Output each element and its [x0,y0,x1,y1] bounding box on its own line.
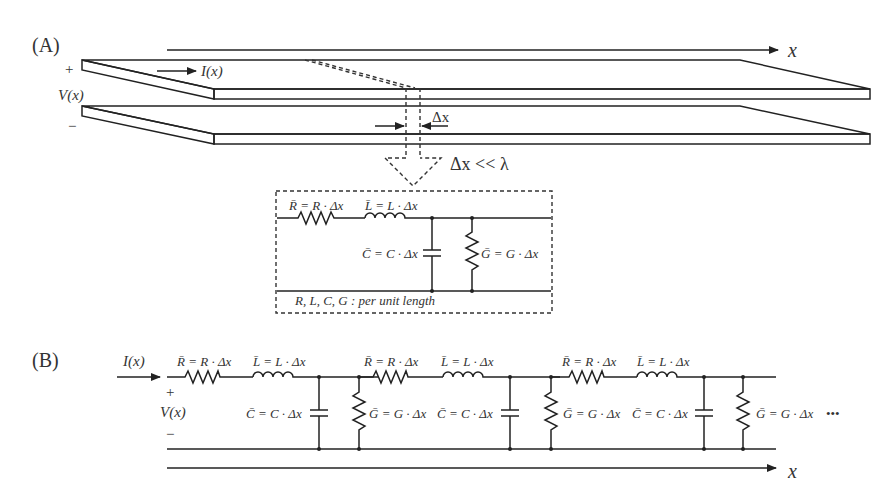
inset-circuit: R̄ = R · Δx L̄ = L · Δx C̄ = C · Δx Ḡ = … [276,191,552,313]
section-1-c-label: C̄ = C · Δx [246,406,302,421]
inset-r-label: R̄ = R · Δx [288,198,344,213]
panel-b-label: (B) [32,349,59,372]
panel-a: (A) x I(x) + V(x) − [32,34,870,313]
inset-g-label: Ḡ = G · Δx [481,246,538,261]
transmission-line-diagram: (A) x I(x) + V(x) − [0,0,896,504]
section-3-g-label: Ḡ = G · Δx [756,406,813,421]
section-1-r-label: R̄ = R · Δx [176,354,232,369]
current-label: I(x) [200,63,223,80]
x-axis-label: x [787,39,797,61]
section-1-l-label: L̄ = L · Δx [252,354,306,369]
section-1-g-label: Ḡ = G · Δx [369,406,426,421]
section-2-g-label: Ḡ = G · Δx [563,406,620,421]
x-axis-label-b: x [787,460,797,482]
continuation-ellipsis: ••• [826,406,840,421]
section-2-r-label: R̄ = R · Δx [363,354,419,369]
section-3-l-label: L̄ = L · Δx [636,354,690,369]
section-2-l-label: L̄ = L · Δx [440,354,494,369]
approx-condition: Δx << λ [450,154,509,174]
minus-sign-b: − [166,426,174,442]
delta-x-slice [305,60,441,186]
plus-sign-b: + [166,384,174,400]
bottom-conductor-plate [82,106,870,144]
dx-label: Δx [432,109,450,125]
section-2-c-label: C̄ = C · Δx [437,406,493,421]
panel-a-label: (A) [32,34,60,57]
minus-sign: − [68,118,76,134]
voltage-label-b: V(x) [160,404,186,421]
inset-l-label: L̄ = L · Δx [364,198,418,213]
voltage-label: V(x) [58,87,84,104]
section-3-r-label: R̄ = R · Δx [561,354,617,369]
panel-b: (B) I(x) + V(x) − [32,349,840,482]
inset-note: R, L, C, G : per unit length [294,293,435,308]
section-3-c-label: C̄ = C · Δx [632,406,688,421]
current-label-b: I(x) [122,353,145,370]
plus-sign: + [65,61,73,77]
inset-c-label: C̄ = C · Δx [362,246,418,261]
